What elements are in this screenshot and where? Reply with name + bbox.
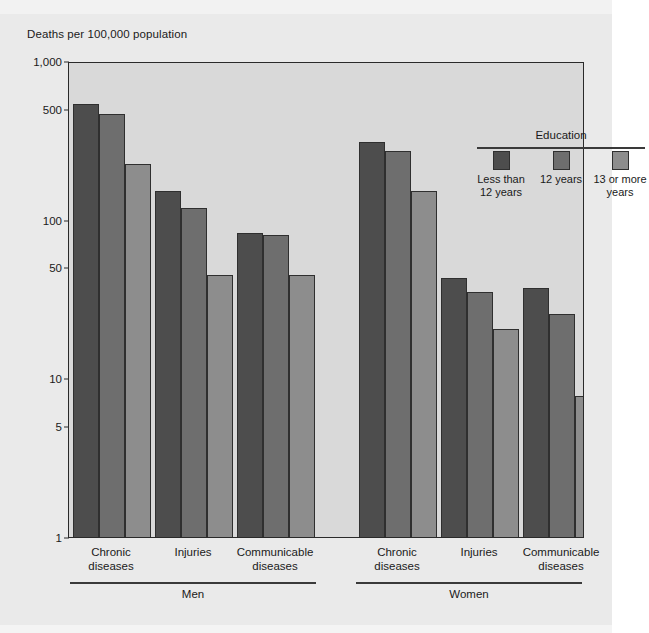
bar bbox=[73, 104, 99, 537]
bar bbox=[411, 191, 437, 537]
y-axis-tick-label: 5 bbox=[22, 421, 62, 433]
legend-swatch bbox=[612, 151, 629, 170]
bar bbox=[99, 114, 125, 537]
bar bbox=[523, 288, 549, 537]
bar bbox=[181, 208, 207, 537]
plot-area: Education Less than 12 years12 years13 o… bbox=[68, 62, 584, 538]
x-axis-group-label: Men bbox=[70, 588, 316, 600]
bar bbox=[289, 275, 315, 537]
legend-label: 13 or more years bbox=[592, 173, 648, 198]
y-axis-tick-label: 1 bbox=[22, 532, 62, 544]
legend-label: Less than 12 years bbox=[473, 173, 529, 198]
x-axis-group-rule bbox=[70, 582, 316, 584]
bar bbox=[263, 235, 289, 538]
x-axis-category-label: Communicablediseases bbox=[506, 546, 616, 573]
legend-label: 12 years bbox=[533, 173, 589, 186]
bar bbox=[207, 275, 233, 537]
legend-item: 13 or more years bbox=[592, 151, 648, 198]
bar bbox=[385, 151, 411, 537]
legend-item: 12 years bbox=[533, 151, 589, 186]
legend-swatch bbox=[493, 151, 510, 170]
legend-swatch bbox=[553, 151, 570, 170]
x-axis-group-rule bbox=[356, 582, 582, 584]
bar bbox=[359, 142, 385, 537]
legend-divider bbox=[477, 147, 645, 149]
bar bbox=[467, 292, 493, 537]
page-margin-top bbox=[0, 0, 612, 14]
y-axis-tick-label: 1,000 bbox=[22, 56, 62, 68]
x-axis-group-label: Women bbox=[356, 588, 582, 600]
legend-title: Education bbox=[473, 129, 649, 141]
bar bbox=[493, 329, 519, 537]
legend: Education Less than 12 years12 years13 o… bbox=[473, 127, 649, 207]
x-axis-category-label: Communicablediseases bbox=[220, 546, 330, 573]
bar bbox=[549, 314, 575, 537]
bar bbox=[575, 396, 583, 537]
y-axis-tick-label: 500 bbox=[22, 104, 62, 116]
bar bbox=[155, 191, 181, 537]
bar bbox=[441, 278, 467, 537]
bar bbox=[237, 233, 263, 537]
bar bbox=[125, 164, 151, 537]
y-axis-tick-label: 100 bbox=[22, 215, 62, 227]
y-axis-tick-label: 50 bbox=[22, 262, 62, 274]
legend-item: Less than 12 years bbox=[473, 151, 529, 198]
y-axis-title: Deaths per 100,000 population bbox=[27, 28, 187, 40]
page-margin-bottom bbox=[0, 625, 612, 633]
y-axis-tick-label: 10 bbox=[22, 373, 62, 385]
